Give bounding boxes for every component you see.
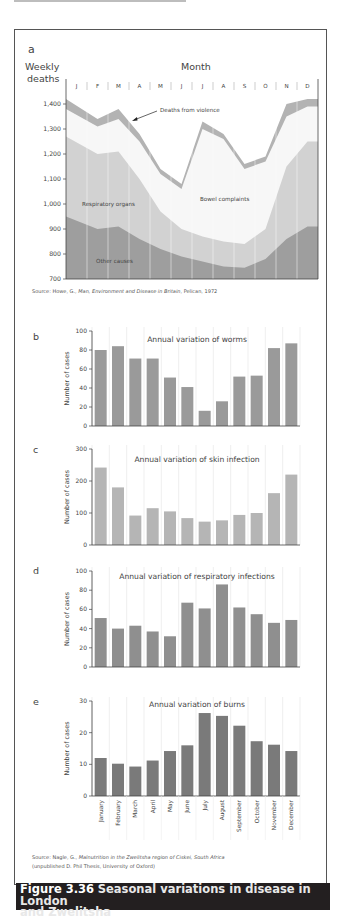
- panel-a-xlabel: Month: [181, 61, 211, 72]
- bar: [233, 377, 245, 426]
- ytick-label: 20: [79, 729, 87, 736]
- ylabel-c: Number of cases: [63, 469, 71, 524]
- ytick-label: 1,000: [43, 200, 61, 207]
- panel-letter-c: c: [33, 444, 38, 455]
- ytick-label: 0: [83, 663, 87, 670]
- month-label: J: [180, 83, 183, 90]
- bar-chart-d: 100806040200dAnnual variation of respira…: [33, 565, 300, 670]
- ylabel-e: Number of cases: [63, 721, 71, 776]
- ytick-label: 1,100: [43, 175, 61, 182]
- bar: [216, 401, 228, 426]
- bar: [233, 726, 245, 796]
- ylabel-d: Number of cases: [63, 591, 71, 646]
- bar: [112, 764, 124, 796]
- month-label: D: [305, 83, 309, 89]
- bar: [233, 515, 245, 545]
- ytick-label: 1,400: [43, 100, 61, 107]
- month-label: M: [158, 83, 163, 89]
- bar: [181, 745, 193, 796]
- bar: [129, 359, 141, 426]
- panel-letter-b: b: [33, 331, 39, 342]
- figure-caption: Figure 3.36 Seasonal variations in disea…: [16, 883, 330, 910]
- bar: [251, 614, 263, 667]
- ytick-label: 20: [79, 644, 87, 651]
- month-label: A: [222, 83, 226, 89]
- panel-a-ylabel-2: deaths: [27, 73, 59, 84]
- ytick-label: 40: [79, 625, 87, 632]
- bar: [147, 761, 159, 796]
- bar-chart-b: 100806040200bAnnual variation of wormsNu…: [33, 327, 300, 429]
- panel-letter-d: d: [33, 565, 39, 576]
- ytick-label: 100: [76, 509, 88, 516]
- ytick-label: 1,300: [43, 125, 61, 132]
- ytick-label: 60: [79, 605, 87, 612]
- other-causes-label: Other causes: [96, 258, 133, 264]
- ytick-label: 0: [83, 422, 87, 429]
- panel-a-ylabel-1: Weekly: [25, 61, 60, 72]
- ytick-label: 20: [79, 403, 87, 410]
- bar: [181, 387, 193, 426]
- ytick-label: 100: [76, 327, 88, 334]
- bar-chart-e: 3020100eAnnual variation of burnsNumber …: [33, 696, 300, 799]
- panel-letter-e: e: [33, 696, 39, 707]
- bar: [164, 751, 176, 796]
- month-label: A: [138, 83, 142, 89]
- ytick-label: 900: [49, 225, 61, 232]
- figure-canvas: a Weekly deaths Month 1,4001,3001,2001,1…: [0, 0, 339, 921]
- chart-title-b: Annual variation of worms: [147, 335, 247, 344]
- ytick-label: 0: [83, 541, 87, 548]
- bar: [216, 520, 228, 545]
- bar: [147, 508, 159, 545]
- panel-a-letter: a: [28, 43, 35, 56]
- month-label: November: [271, 799, 277, 830]
- month-label: June: [184, 800, 191, 814]
- month-label: March: [132, 800, 138, 818]
- month-label: February: [115, 799, 122, 825]
- bar: [95, 350, 107, 426]
- ytick-label: 40: [79, 384, 87, 391]
- bar: [285, 751, 297, 796]
- bar: [268, 745, 280, 796]
- bar: [268, 348, 280, 426]
- bar: [112, 629, 124, 667]
- bar: [147, 359, 159, 426]
- source-bars-line2: (unpublished D. Phil Thesis, University …: [32, 863, 155, 869]
- bar: [216, 584, 228, 667]
- ytick-label: 200: [76, 477, 88, 484]
- ytick-label: 80: [79, 586, 87, 593]
- chart-title-d: Annual variation of respiratory infectio…: [119, 572, 274, 581]
- ytick-label: 300: [76, 445, 88, 452]
- month-label: J: [75, 83, 78, 90]
- bar: [268, 493, 280, 545]
- month-label: January: [98, 799, 105, 823]
- source-a: Source: Howe, G., Man, Environment and D…: [32, 288, 217, 294]
- month-label: April: [150, 800, 157, 814]
- month-label: F: [96, 83, 99, 89]
- bar: [216, 716, 228, 796]
- ytick-label: 800: [49, 250, 61, 257]
- ytick-label: 10: [79, 760, 87, 767]
- bar: [285, 620, 297, 667]
- month-label: July: [202, 799, 209, 811]
- respiratory-label: Respiratory organs: [82, 201, 135, 208]
- ytick-label: 1,200: [43, 150, 61, 157]
- bar: [95, 758, 107, 796]
- month-label: O: [263, 83, 268, 89]
- bar-chart-c: 3002001000cAnnual variation of skin infe…: [33, 444, 300, 548]
- month-label: September: [236, 799, 243, 832]
- ytick-label: 30: [79, 697, 87, 704]
- month-label: August: [219, 799, 226, 820]
- month-label: December: [288, 799, 294, 830]
- month-label: J: [201, 83, 204, 90]
- figure-title-line2: and Zwelitsha: [20, 905, 111, 919]
- violence-label: Deaths from violence: [160, 107, 220, 113]
- bar: [199, 522, 211, 545]
- month-label: May: [167, 799, 174, 812]
- bar: [251, 741, 263, 796]
- source-bars: Source: Nagle, G., Malnutrition in the Z…: [32, 854, 225, 860]
- month-label: October: [254, 799, 260, 823]
- month-axis-labels: JanuaryFebruaryMarchAprilMayJuneJulyAugu…: [98, 796, 300, 840]
- month-label: M: [116, 83, 121, 89]
- month-label: S: [243, 83, 247, 89]
- bar: [199, 608, 211, 667]
